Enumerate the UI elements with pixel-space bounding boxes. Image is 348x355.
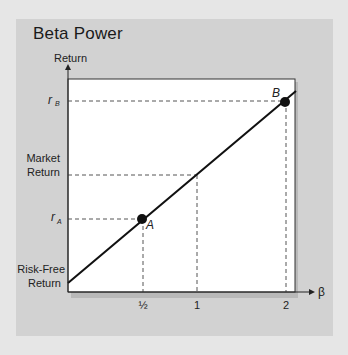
market-label-1: Market: [26, 152, 60, 164]
plot-area: [68, 79, 295, 292]
x-tick-one: 1: [194, 299, 200, 311]
riskfree-label-2: Return: [28, 277, 61, 289]
x-tick-two: 2: [283, 299, 289, 311]
y-axis-arrow-icon: [65, 64, 71, 70]
beta-chart: Return β r B Market Return r A Risk-Free…: [0, 0, 348, 355]
ra-label-sub: A: [56, 218, 62, 225]
market-label-2: Return: [27, 166, 60, 178]
rb-label: r: [48, 93, 53, 107]
point-b-label: B: [272, 86, 280, 100]
ra-label: r: [51, 210, 56, 224]
rb-label-sub: B: [55, 100, 60, 107]
point-b-marker: [280, 97, 290, 107]
x-axis-arrow-icon: [309, 289, 315, 295]
x-axis-label: β: [318, 285, 325, 299]
point-a-label: A: [145, 218, 154, 232]
y-axis-label: Return: [54, 52, 87, 64]
x-tick-half: ½: [138, 299, 147, 311]
riskfree-label-1: Risk-Free: [17, 263, 65, 275]
